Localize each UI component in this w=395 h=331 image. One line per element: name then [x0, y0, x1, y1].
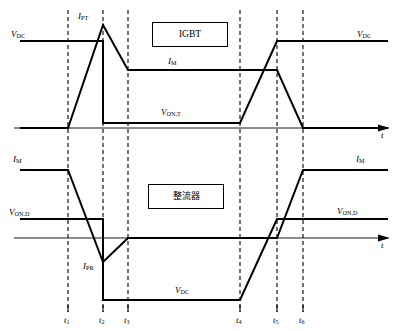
label-im-lower-right: IM	[356, 155, 365, 164]
lower-axis-label: t	[381, 241, 384, 250]
label-im-upper: IM	[168, 57, 177, 66]
label-ipr-valley: IPR	[83, 262, 94, 271]
tick-label-t5: t5	[273, 315, 278, 325]
tick-label-t2: t2	[99, 315, 104, 325]
label-ipt-peak: IPT	[78, 12, 88, 21]
label-vdc-left: VDC	[11, 30, 25, 39]
label-von-d-right: VON,D	[337, 207, 357, 216]
waveform-figure: VDC IPT IM VON,T VDC IGBT IM IM VON,D VO…	[0, 0, 395, 331]
label-von-t: VON,T	[161, 108, 181, 117]
upper-axis-label: t	[381, 131, 384, 140]
tick-label-t6: t6	[299, 315, 304, 325]
tick-label-t3: t3	[124, 315, 129, 325]
plot-title-rectifier: 整流器	[148, 184, 224, 209]
tick-label-t4: t4	[236, 315, 241, 325]
label-von-d-left: VON,D	[9, 208, 29, 217]
label-vdc-right: VDC	[357, 30, 371, 39]
diode-voltage-waveform	[20, 219, 388, 300]
tick-label-t1: t1	[64, 315, 69, 325]
plot-title-igbt: IGBT	[152, 22, 228, 47]
time-tick-stubs	[68, 305, 303, 312]
label-im-lower-left: IM	[13, 155, 22, 164]
label-vdc-lower: VDC	[175, 286, 189, 295]
waveform-canvas	[0, 0, 395, 331]
igbt-voltage-waveform	[20, 41, 388, 123]
